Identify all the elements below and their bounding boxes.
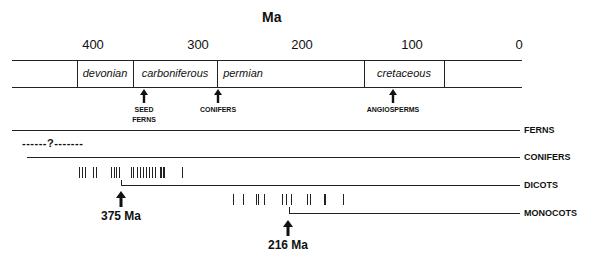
dicots-divergence-arrow-icon — [115, 191, 127, 207]
period-divider — [364, 60, 365, 87]
annotation-angiosperms: ANGIOSPERMS — [367, 105, 420, 115]
fossil-tick — [307, 194, 308, 205]
fossil-tick — [152, 167, 153, 178]
period-permian: permian — [223, 67, 263, 79]
fossil-tick — [160, 167, 162, 178]
fossil-tick — [133, 167, 134, 178]
fossil-tick — [163, 167, 165, 178]
annotation-seed-ferns-line1: SEED — [132, 105, 156, 115]
seed-ferns-arrow-icon — [139, 89, 149, 103]
dicots-lineage-line — [121, 185, 520, 186]
period-devonian: devonian — [83, 67, 128, 79]
fossil-tick — [243, 194, 244, 205]
fossil-tick — [93, 167, 94, 178]
fossil-tick — [146, 167, 147, 178]
fossil-tick — [310, 194, 311, 205]
period-carboniferous: carboniferous — [142, 67, 209, 79]
period-divider — [217, 60, 218, 87]
axis-title: Ma — [262, 9, 281, 25]
monocots-divergence-label: 216 Ma — [268, 238, 308, 252]
fossil-tick — [114, 167, 115, 178]
fossil-tick — [79, 167, 80, 178]
period-divider — [133, 60, 134, 87]
fossil-tick — [137, 167, 138, 178]
fossil-tick — [149, 167, 150, 178]
fossil-tick — [82, 167, 83, 178]
fossil-tick — [155, 167, 156, 178]
annotation-conifers: CONIFERS — [200, 105, 236, 115]
lineage-label-conifers: CONIFERS — [524, 152, 571, 162]
fossil-tick — [85, 167, 86, 178]
fossil-tick — [96, 167, 97, 178]
dicots-divergence-label: 375 Ma — [101, 209, 141, 223]
fossil-tick — [111, 167, 112, 178]
fossil-tick — [286, 194, 287, 205]
fossil-tick — [258, 194, 259, 205]
period-band-top — [12, 60, 522, 61]
fossil-tick — [282, 194, 283, 205]
fossil-tick — [119, 167, 120, 178]
fossil-tick — [324, 194, 326, 205]
tick-300: 300 — [187, 37, 209, 52]
annotation-seed-ferns-line2: FERNS — [132, 115, 156, 125]
fossil-tick — [256, 194, 257, 205]
monocots-lineage-line — [289, 213, 520, 214]
tick-0: 0 — [515, 37, 522, 52]
lineage-label-monocots: MONOCOTS — [524, 208, 577, 218]
tick-100: 100 — [401, 37, 423, 52]
conifers-lineage-line — [27, 157, 520, 158]
monocots-divergence-arrow-icon — [282, 220, 294, 236]
angiosperms-arrow-icon — [388, 89, 398, 103]
annotation-seed-ferns: SEED FERNS — [132, 105, 156, 125]
lineage-label-ferns: FERNS — [524, 125, 555, 135]
period-divider — [444, 60, 445, 87]
fossil-tick — [182, 167, 183, 178]
tick-200: 200 — [291, 37, 313, 52]
fossil-tick — [264, 194, 265, 205]
tick-400: 400 — [82, 37, 104, 52]
lineage-label-dicots: DICOTS — [524, 180, 558, 190]
fossil-tick — [131, 167, 132, 178]
fossil-tick — [343, 194, 344, 205]
fossil-tick — [140, 167, 141, 178]
conifers-arrow-icon — [213, 89, 223, 103]
period-cretaceous: cretaceous — [377, 67, 431, 79]
period-band-bottom — [12, 87, 522, 88]
ferns-lineage-line — [12, 130, 520, 131]
fossil-tick — [116, 167, 117, 178]
fossil-tick — [233, 194, 234, 205]
uncertain-origin-marker: ------?------- — [22, 137, 83, 149]
period-divider — [77, 60, 78, 87]
fossil-tick — [291, 194, 292, 205]
fossil-tick — [143, 167, 144, 178]
